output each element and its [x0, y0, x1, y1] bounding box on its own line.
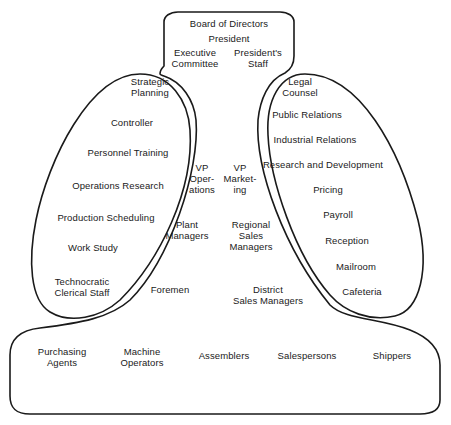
technostructure-item: Operations Research [72, 180, 164, 191]
president-label: President [208, 33, 249, 44]
foremen-label: Foremen [151, 284, 190, 295]
support-staff-item: Mailroom [336, 261, 376, 272]
support-staff-item: Payroll [323, 209, 353, 220]
technostructure-item: Production Scheduling [57, 212, 154, 223]
operating-core-item: Purchasing Agents [38, 346, 87, 368]
vp-marketing-label: VP Market- ing [224, 162, 257, 195]
executive-committee-label: Executive Committee [172, 47, 219, 69]
support-staff-item: Legal Counsel [282, 76, 318, 98]
support-staff-item: Industrial Relations [274, 134, 357, 145]
plant-managers-label: Plant Managers [165, 219, 208, 241]
technostructure-item: Personnel Training [87, 147, 168, 158]
technostructure-item: Strategic Planning [131, 76, 169, 98]
district-sales-managers-label: District Sales Managers [233, 284, 303, 306]
support-staff-item: Research and Development [263, 159, 383, 170]
presidents-staff-label: President's Staff [234, 47, 282, 69]
technostructure-item: Technocratic Clerical Staff [54, 276, 109, 298]
org-structure-diagram: Board of Directors President Executive C… [0, 0, 451, 425]
technostructure-item: Controller [111, 117, 153, 128]
support-staff-item: Cafeteria [342, 286, 381, 297]
technostructure-item: Work Study [68, 242, 118, 253]
support-staff-item: Public Relations [272, 109, 342, 120]
operating-core-item: Shippers [373, 350, 411, 361]
vp-operations-label: VP Oper- ations [189, 162, 215, 195]
support-staff-item: Pricing [313, 184, 343, 195]
board-of-directors-label: Board of Directors [190, 18, 268, 29]
support-staff-item: Reception [325, 235, 369, 246]
operating-core-item: Salespersons [278, 350, 337, 361]
operating-core-item: Assemblers [199, 350, 250, 361]
regional-sales-managers-label: Regional Sales Managers [229, 219, 272, 252]
operating-core-item: Machine Operators [120, 346, 163, 368]
